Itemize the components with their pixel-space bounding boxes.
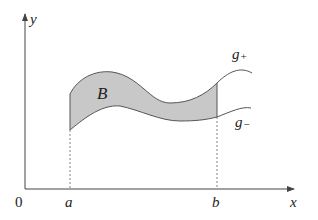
bound-b-label: b <box>212 194 220 210</box>
g-minus-label: g− <box>235 114 250 130</box>
region-b <box>70 72 217 130</box>
origin-label: 0 <box>15 194 23 210</box>
y-axis-label: y <box>28 11 37 27</box>
g-plus-label: g+ <box>232 46 247 62</box>
x-axis-label: x <box>289 194 297 210</box>
region-label: B <box>97 84 108 103</box>
diagram: y x 0 a b B g+ g− <box>0 0 318 220</box>
bound-a-label: a <box>65 194 73 210</box>
